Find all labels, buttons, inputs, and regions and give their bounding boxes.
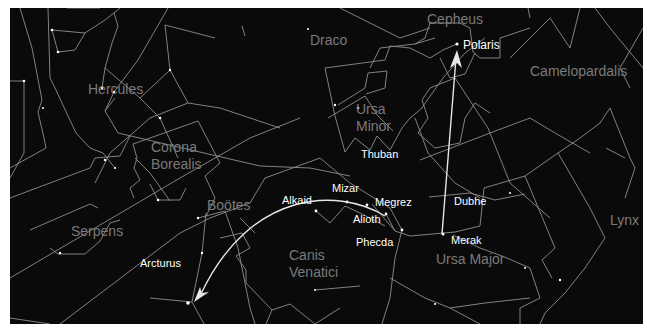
arrowhead-down-icon — [194, 287, 209, 302]
constellation-label-ursa-minor-1: Ursa — [356, 102, 386, 116]
constellation-label-corona-borealis-1: Corona — [151, 140, 197, 154]
pointer-arrows — [200, 58, 456, 296]
star-label-mizar: Mizar — [332, 183, 359, 194]
star-label-phecda: Phecda — [356, 237, 393, 248]
constellation-label-cepheus: Cepheus — [427, 12, 483, 26]
star-label-polaris: Polaris — [463, 39, 500, 51]
constellation-label-bootes: Boötes — [207, 198, 251, 212]
constellation-label-ursa-minor-2: Minor — [356, 119, 391, 133]
constellation-label-camelopardalis: Camelopardalis — [530, 64, 627, 78]
star-label-dubhe: Dubhe — [454, 196, 486, 207]
star-label-megrez: Megrez — [375, 197, 412, 208]
star-label-alioth: Alioth — [353, 214, 381, 225]
constellation-label-serpens: Serpens — [71, 224, 123, 238]
constellation-label-hercules: Hercules — [88, 82, 143, 96]
star-label-arcturus: Arcturus — [140, 258, 181, 269]
star-chart: Hercules Draco Cepheus Camelopardalis Ur… — [10, 8, 643, 324]
constellation-label-draco: Draco — [310, 33, 347, 47]
constellation-label-canis-venatici-2: Venatici — [289, 265, 338, 279]
constellation-label-ursa-major: Ursa Major — [436, 252, 504, 266]
star-label-thuban: Thuban — [361, 149, 398, 160]
constellation-label-canis-venatici-1: Canis — [289, 248, 325, 262]
constellation-label-lynx: Lynx — [610, 213, 639, 227]
star-label-merak: Merak — [451, 235, 482, 246]
star-label-alkaid: Alkaid — [282, 195, 312, 206]
constellation-label-corona-borealis-2: Borealis — [151, 157, 202, 171]
